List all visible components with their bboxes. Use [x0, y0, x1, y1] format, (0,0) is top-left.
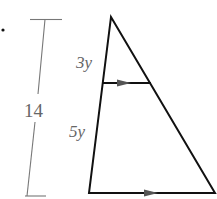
- triangle-diagram: 14 3y 5y: [0, 0, 217, 199]
- midline-arrow-icon: [117, 80, 131, 87]
- dimension-label: 14: [24, 100, 44, 121]
- bullet-dot: [1, 28, 4, 31]
- lower-segment-label: 5y: [69, 122, 86, 141]
- upper-segment-label: 3y: [75, 53, 93, 72]
- base-arrow-icon: [144, 190, 158, 197]
- triangle: [89, 17, 215, 193]
